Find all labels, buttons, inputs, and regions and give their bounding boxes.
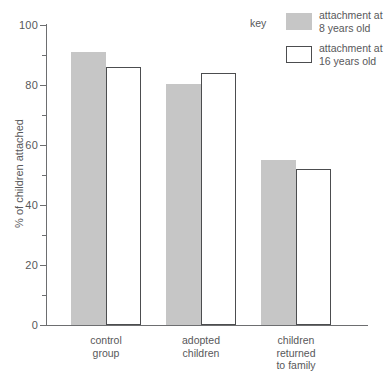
y-tick-20 [40, 265, 46, 266]
x-axis-line [46, 325, 368, 326]
y-tick-40 [40, 205, 46, 206]
legend-label-line-2: 16 years old [319, 55, 386, 68]
legend-swatch-16yr [286, 46, 312, 63]
y-tick-minor-90 [42, 55, 46, 56]
y-tick-label-20: 20 [0, 260, 38, 271]
y-tick-minor-30 [42, 235, 46, 236]
legend-label-8yr: attachment at 8 years old [319, 9, 386, 34]
y-tick-80 [40, 85, 46, 86]
bar-control-group-16yr [106, 67, 141, 325]
y-tick-0 [40, 325, 46, 326]
y-tick-100 [40, 25, 46, 26]
legend-label-16yr: attachment at 16 years old [319, 42, 386, 67]
y-axis-title: % of children attached [14, 99, 25, 249]
cat-line-1: children [241, 334, 351, 347]
x-category-label-adopted-children: adopted children [146, 334, 256, 359]
bar-control-group-8yr [71, 52, 106, 325]
bar-children-returned-16yr [296, 169, 331, 325]
y-tick-label-100: 100 [0, 20, 38, 31]
legend: key attachment at 8 years old attachment… [250, 2, 386, 70]
x-category-label-control-group: control group [51, 334, 161, 359]
x-category-label-children-returned-to-family: children returned to family [241, 334, 351, 372]
y-tick-label-0: 0 [0, 320, 38, 331]
y-tick-label-80: 80 [0, 80, 38, 91]
y-tick-minor-50 [42, 175, 46, 176]
cat-line-2: returned [241, 347, 351, 360]
y-tick-minor-10 [42, 295, 46, 296]
legend-label-line-1: attachment at [319, 42, 386, 55]
legend-title: key [250, 18, 266, 29]
legend-label-line-2: 8 years old [319, 22, 386, 35]
legend-swatch-8yr [286, 13, 312, 30]
cat-line-1: control [51, 334, 161, 347]
legend-label-line-1: attachment at [319, 9, 386, 22]
y-tick-minor-70 [42, 115, 46, 116]
bar-children-returned-8yr [261, 160, 296, 325]
cat-line-2: group [51, 347, 161, 360]
bar-adopted-children-8yr [166, 84, 201, 326]
y-axis-line [46, 24, 47, 326]
cat-line-2: children [146, 347, 256, 360]
bar-chart: 0 20 40 60 80 100 % of children attached… [0, 0, 386, 379]
y-tick-60 [40, 145, 46, 146]
cat-line-1: adopted [146, 334, 256, 347]
bar-adopted-children-16yr [201, 73, 236, 325]
cat-line-3: to family [241, 359, 351, 372]
